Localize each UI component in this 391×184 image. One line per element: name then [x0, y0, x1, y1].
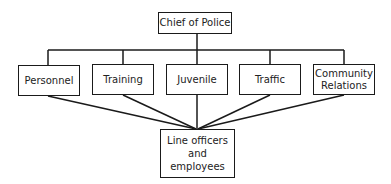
line-officers-label-line2: and [188, 147, 207, 160]
training-label: Training [103, 74, 142, 86]
juvenile-label: Juvenile [177, 74, 216, 86]
community-relations-box: Community Relations [313, 64, 375, 95]
line-officers-label-line3: employees [170, 160, 225, 173]
community-relations-label-line2: Relations [321, 80, 367, 92]
traffic-label: Traffic [255, 74, 285, 86]
line-officers-box: Line officers and employees [160, 129, 235, 178]
chief-of-police-label: Chief of Police [160, 17, 231, 29]
community-relations-label-line1: Community [315, 68, 373, 80]
personnel-label: Personnel [25, 75, 74, 87]
juvenile-box: Juvenile [166, 64, 228, 95]
training-box: Training [92, 64, 154, 95]
line-officers-label-line1: Line officers [167, 134, 228, 147]
chief-of-police-box: Chief of Police [158, 12, 232, 34]
traffic-box: Traffic [239, 64, 301, 95]
personnel-box: Personnel [18, 65, 80, 96]
